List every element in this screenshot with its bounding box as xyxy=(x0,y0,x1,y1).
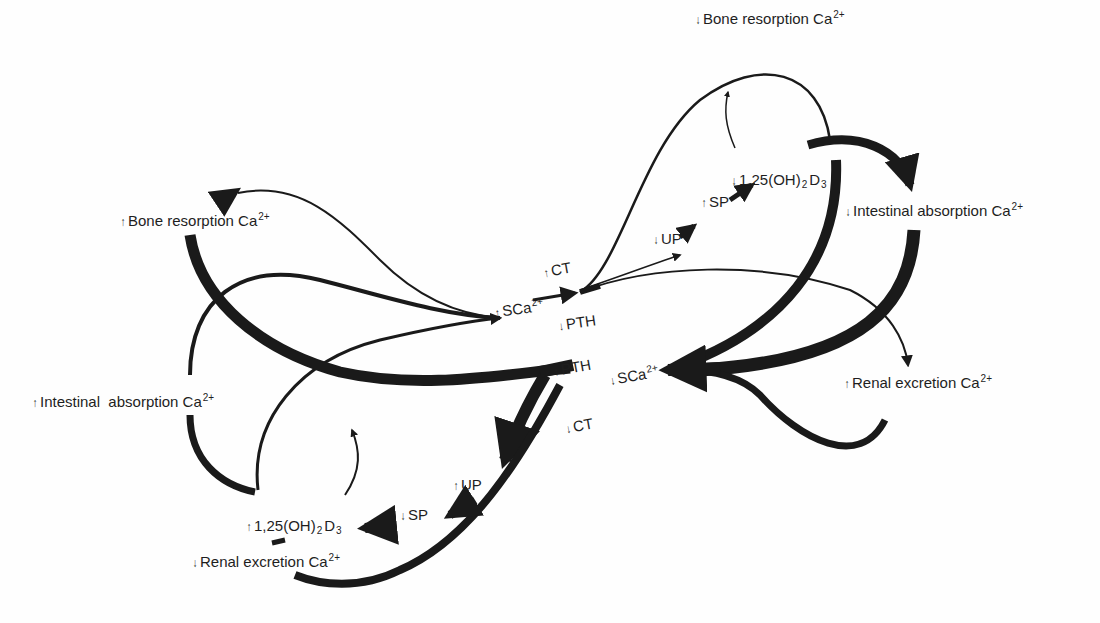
down-arrow-icon: ↓ xyxy=(565,423,572,436)
down-arrow-icon: ↓ xyxy=(401,510,406,522)
up-arrow-icon: ↑ xyxy=(702,197,707,209)
calcium-homeostasis-diagram: ↓Bone resorption Ca2+ ↓1,25(OH)2D3 ↑SP ↓… xyxy=(0,0,1100,623)
down-arrow-icon: ↓ xyxy=(732,175,737,187)
increased-up-label: ↑UP xyxy=(453,477,482,492)
down-arrow-icon: ↓ xyxy=(609,374,616,387)
increased-vitd-label: ↑1,25(OH)2D3 xyxy=(246,518,344,536)
decreased-vitd-label: ↓1,25(OH)2D3 xyxy=(731,172,829,190)
down-arrow-icon: ↓ xyxy=(846,206,851,218)
up-arrow-icon: ↑ xyxy=(33,397,38,409)
up-arrow-icon: ↑ xyxy=(845,378,850,390)
down-arrow-icon: ↓ xyxy=(558,320,564,333)
down-arrow-icon: ↓ xyxy=(696,14,701,26)
decreased-bone-resorption-label: ↓Bone resorption Ca2+ xyxy=(695,10,845,26)
up-arrow-icon: ↑ xyxy=(543,267,550,280)
increased-renal-excretion-label: ↑Renal excretion Ca2+ xyxy=(844,374,992,390)
up-arrow-icon: ↑ xyxy=(121,216,126,228)
decreased-sp-label: ↓SP xyxy=(400,507,428,522)
increased-bone-resorption-label: ↑Bone resorption Ca2+ xyxy=(120,212,270,228)
down-arrow-icon: ↓ xyxy=(654,234,659,246)
down-arrow-icon: ↓ xyxy=(193,557,198,569)
up-arrow-icon: ↑ xyxy=(494,307,500,320)
decreased-renal-excretion-label: ↓Renal excretion Ca2+ xyxy=(192,553,340,569)
decreased-intestinal-absorption-label: ↓Intestinal absorption Ca2+ xyxy=(845,202,1023,218)
increased-sp-label: ↑SP xyxy=(701,194,729,209)
vitd-to-sca-arrow xyxy=(257,318,500,490)
decreased-up-label: ↓UP xyxy=(653,231,682,246)
up-arrow-icon: ↑ xyxy=(553,365,560,378)
flow-arrows-layer xyxy=(0,0,1100,623)
up-arrow-icon: ↑ xyxy=(247,521,252,533)
up-arrow-icon: ↑ xyxy=(454,480,459,492)
bone-resorption-to-sca-arrow xyxy=(238,191,500,318)
increased-intestinal-absorption-label: ↑Intestinal absorption Ca2+ xyxy=(32,393,214,409)
